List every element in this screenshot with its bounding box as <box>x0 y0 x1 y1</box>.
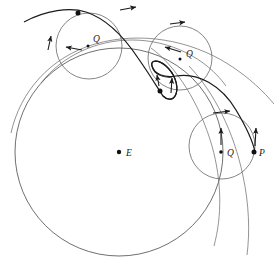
secondary-arc-lower-right <box>189 66 249 255</box>
planet-point-1 <box>76 11 81 16</box>
label-earth-center: E <box>125 148 132 158</box>
secondary-arc-upper <box>41 40 226 86</box>
retrograde-loop <box>152 61 177 99</box>
epicyclic-path <box>24 10 255 152</box>
epicycle-center-point-2 <box>179 58 182 61</box>
epicycle-center-point-3 <box>219 150 223 154</box>
arrow-epicycle-2-top <box>170 22 185 24</box>
diagram-canvas: E Q Q Q P <box>0 0 274 266</box>
label-planet-p: P <box>258 148 265 158</box>
arrow-epicycle-1-rotation <box>66 47 82 50</box>
arrow-deferent-upper-left <box>48 36 51 50</box>
secondary-arc-right <box>151 48 220 246</box>
planet-point-2 <box>158 89 163 94</box>
label-epicycle-center-1: Q <box>93 34 100 44</box>
epicycle-center-point-1 <box>87 45 90 48</box>
label-epicycle-center-2: Q <box>186 49 193 59</box>
arrow-path-right <box>255 128 256 146</box>
label-epicycle-center-3: Q <box>227 148 234 158</box>
earth-center-point <box>117 150 121 154</box>
arrow-loop-right <box>171 78 172 93</box>
arrow-path-top <box>120 7 136 10</box>
planet-point-3 <box>252 150 257 155</box>
secondary-arc-left <box>11 38 274 133</box>
epicycle-diagram: E Q Q Q P <box>0 0 274 266</box>
